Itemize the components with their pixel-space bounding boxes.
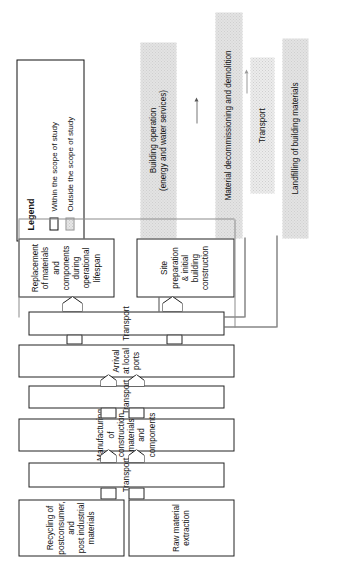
node-raw-material-extraction: Raw material extraction <box>128 499 234 556</box>
node-recycling-postconsumer: Recycling of postconsumer, and post indu… <box>18 499 124 556</box>
legend-item-outside: Outside the scope of study <box>65 116 74 230</box>
arrow-transport3-to-replacement <box>62 296 82 311</box>
connector-stub-manufacturing-transport2-b <box>128 407 144 418</box>
node-transport-1: Transport <box>28 462 224 487</box>
node-transport-2: Transport <box>28 385 224 408</box>
feedback-line-top-b <box>276 235 277 327</box>
connector-stub-arrival-transport3-b <box>166 334 182 344</box>
diagram-canvas: Legend Within the scope of study Outside… <box>0 0 361 563</box>
arrow-transport3-to-site-preparation <box>162 296 182 311</box>
connector-stub-arrival-transport3-a <box>66 334 82 344</box>
node-replacement: Replacement of materials and components … <box>18 238 114 297</box>
connector-stub-raw-transport1 <box>128 487 144 499</box>
arrow-transport1-to-manufacturing-a <box>100 449 116 462</box>
connector-decommissioning-to-transport <box>246 73 247 93</box>
arrowhead-decommissioning <box>194 97 198 101</box>
node-landfilling: Landfilling of building materials <box>282 38 308 238</box>
arrow-transport2-to-arrival-a <box>100 374 116 386</box>
node-arrival-local-ports: Arrival at local ports <box>18 344 234 377</box>
node-material-decommissioning: Material decommissioning and demolition <box>215 12 242 238</box>
return-outer-vertical <box>18 218 234 219</box>
node-transport-3: Transport <box>28 311 224 335</box>
return-outer-top <box>18 219 19 317</box>
legend-label-outside-scope: Outside the scope of study <box>65 116 74 211</box>
return-outer-bottom <box>234 219 235 327</box>
arrow-transport2-to-arrival-b <box>128 374 144 386</box>
node-manufacturing: Manufacturing of construction materials … <box>18 418 234 451</box>
node-site-preparation: Site preparation & initial building cons… <box>136 238 234 297</box>
node-transport-4: Transport <box>250 57 274 193</box>
feedback-line-top-a <box>244 237 245 317</box>
connector-stub-recycling-transport1 <box>100 487 116 499</box>
arrowhead-transport-4 <box>244 69 248 73</box>
arrow-transport1-to-manufacturing-b <box>128 449 144 462</box>
legend-title: Legend <box>25 198 35 230</box>
legend-box: Legend Within the scope of study Outside… <box>16 59 84 241</box>
legend-label-within-scope: Within the scope of study <box>49 122 58 211</box>
node-building-operation: Building operation (energy and water ser… <box>140 42 176 238</box>
connector-operation-to-decommissioning <box>196 101 197 123</box>
legend-item-within: Within the scope of study <box>49 122 58 230</box>
connector-stub-manufacturing-transport2-a <box>100 407 116 418</box>
